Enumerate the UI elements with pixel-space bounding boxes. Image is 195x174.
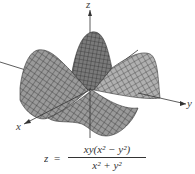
function-caption: z = xy(x² − y²) x² + y²	[44, 143, 154, 174]
fraction-bar	[68, 157, 146, 158]
formula-lhs: z	[44, 152, 48, 164]
y-axis-label: y	[187, 97, 192, 109]
z-arrow-icon	[88, 10, 92, 16]
x-arrow-icon	[24, 119, 31, 124]
x-axis-label: x	[16, 120, 21, 132]
formula-fraction: xy(x² − y²) x² + y²	[68, 143, 146, 172]
z-axis-label: z	[86, 0, 90, 10]
formula-denominator: x² + y²	[68, 159, 146, 172]
formula-numerator: xy(x² − y²)	[68, 143, 146, 156]
formula-equals: =	[54, 152, 60, 164]
